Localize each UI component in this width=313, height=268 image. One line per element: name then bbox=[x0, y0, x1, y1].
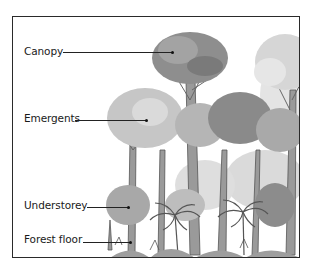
leader-line-forest-floor bbox=[83, 242, 131, 243]
label-forest-floor: Forest floor bbox=[24, 233, 82, 245]
leader-dot-understorey bbox=[127, 206, 130, 209]
label-emergents: Emergents bbox=[24, 112, 80, 124]
canopy-tree-crown bbox=[152, 32, 228, 84]
right-tree-crown bbox=[254, 34, 313, 90]
label-understorey: Understorey bbox=[24, 199, 87, 211]
leader-line-understorey bbox=[87, 207, 129, 208]
rainforest-illustration bbox=[0, 0, 313, 268]
leader-dot-emergents bbox=[145, 119, 148, 122]
leader-dot-forest-floor bbox=[129, 241, 132, 244]
leader-line-canopy bbox=[63, 52, 173, 53]
leader-line-emergents bbox=[75, 120, 147, 121]
label-canopy: Canopy bbox=[24, 45, 63, 57]
forest-floor-plants bbox=[110, 237, 300, 258]
leader-dot-canopy bbox=[171, 51, 174, 54]
